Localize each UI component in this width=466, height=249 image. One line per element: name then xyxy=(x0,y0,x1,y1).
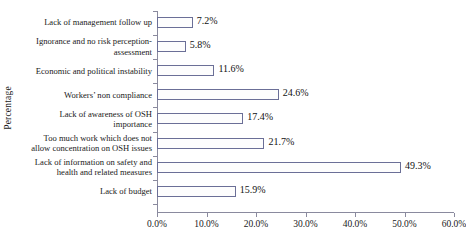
x-axis-tick-label: 10.0% xyxy=(194,219,219,229)
category-label-line: Workers’ non compliance xyxy=(4,90,152,100)
category-label: Ignorance and no risk perception-assessm… xyxy=(4,36,152,56)
x-axis-tick-label: 30.0% xyxy=(293,219,318,229)
category-label-line: Economic and political instability xyxy=(4,66,152,76)
bar-row: 49.3% xyxy=(157,156,454,180)
category-label-line: Lack of awareness of OSH xyxy=(4,109,152,119)
bar-value-label: 15.9% xyxy=(240,184,266,195)
bar xyxy=(157,162,401,173)
bar xyxy=(157,89,279,100)
x-axis-tick-label: 50.0% xyxy=(392,219,417,229)
x-axis-tick-label: 40.0% xyxy=(343,219,368,229)
category-label-line: Lack of management follow up xyxy=(4,17,152,27)
bar-row: 24.6% xyxy=(157,83,454,107)
category-label: Lack of budget xyxy=(4,186,152,196)
category-label: Lack of information on safety andhealth … xyxy=(4,157,152,177)
category-label: Too much work which does notallow concen… xyxy=(4,133,152,153)
x-axis-tick xyxy=(405,213,406,217)
category-label: Lack of awareness of OSHimportance xyxy=(4,109,152,129)
bar xyxy=(157,138,264,149)
bar xyxy=(157,65,214,76)
category-label-line: Too much work which does not xyxy=(4,133,152,143)
bar-row: 21.7% xyxy=(157,132,454,156)
bar-value-label: 24.6% xyxy=(283,87,309,98)
x-axis-tick xyxy=(355,213,356,217)
category-label: Lack of management follow up xyxy=(4,17,152,27)
x-axis-tick xyxy=(306,213,307,217)
category-label-line: importance xyxy=(4,119,152,129)
category-label-line: allow concentration on OSH issues xyxy=(4,143,152,153)
x-axis-tick-label: 60.0% xyxy=(442,219,466,229)
bar-row: 7.2% xyxy=(157,11,454,35)
x-axis-tick-label: 20.0% xyxy=(244,219,269,229)
bar xyxy=(157,41,186,52)
bar-row: 15.9% xyxy=(157,180,454,204)
category-label: Workers’ non compliance xyxy=(4,90,152,100)
bar-value-label: 49.3% xyxy=(405,160,431,171)
bar-row: 11.6% xyxy=(157,59,454,83)
x-axis-tick-label: 0.0% xyxy=(147,219,167,229)
bar xyxy=(157,17,193,28)
category-label-line: Lack of information on safety and xyxy=(4,157,152,167)
plot-area: 7.2%5.8%11.6%24.6%17.4%21.7%49.3%15.9% xyxy=(157,11,454,212)
x-axis-tick xyxy=(157,213,158,217)
x-axis-tick xyxy=(454,213,455,217)
category-label-line: Ignorance and no risk perception- xyxy=(4,36,152,46)
bar-value-label: 7.2% xyxy=(197,15,218,26)
x-axis-tick xyxy=(207,213,208,217)
bar-value-label: 21.7% xyxy=(268,136,294,147)
bar-value-label: 17.4% xyxy=(247,111,273,122)
category-label-line: assessment xyxy=(4,47,152,57)
bar-row: 17.4% xyxy=(157,107,454,131)
category-label-line: health and related measures xyxy=(4,167,152,177)
category-label: Economic and political instability xyxy=(4,66,152,76)
bar xyxy=(157,186,236,197)
bar xyxy=(157,113,243,124)
bar-row: 5.8% xyxy=(157,35,454,59)
x-axis-tick xyxy=(256,213,257,217)
bar-value-label: 11.6% xyxy=(218,63,243,74)
bar-value-label: 5.8% xyxy=(190,39,211,50)
category-label-line: Lack of budget xyxy=(4,186,152,196)
y-axis-title: Percentage xyxy=(0,0,16,215)
